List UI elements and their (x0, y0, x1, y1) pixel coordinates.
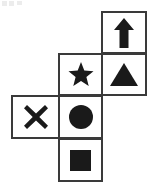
scan-artifact-marks (2, 1, 24, 7)
artifact-mark-1 (2, 1, 7, 6)
net-cell-triangle (101, 53, 147, 96)
square-icon (70, 150, 91, 171)
artifact-mark-3 (17, 1, 22, 5)
net-cell-square (58, 138, 103, 182)
net-cell-circle (58, 95, 103, 139)
artifact-mark-2 (9, 1, 14, 6)
net-cell-x-mark (11, 95, 60, 139)
net-cell-star (58, 53, 103, 96)
circle-icon (69, 105, 93, 129)
cube-net-figure (0, 0, 157, 192)
net-cell-arrow (101, 11, 147, 54)
star-icon (68, 62, 94, 87)
x-mark-icon (24, 105, 48, 129)
arrow-up-icon (113, 18, 135, 48)
triangle-icon (110, 63, 138, 86)
